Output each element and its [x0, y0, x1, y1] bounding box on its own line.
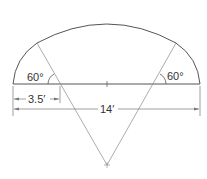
arch-diagram: 60° 60° 3.5′ 14′: [0, 0, 207, 179]
arrowhead-icon: [14, 108, 19, 111]
short-dimension-label: 3.5′: [28, 93, 45, 105]
span-dimension-label: 14′: [100, 103, 114, 115]
arrowhead-icon: [54, 98, 59, 101]
left-angle-arc: [48, 74, 54, 84]
arrowhead-icon: [194, 108, 199, 111]
left-radial-line: [37, 43, 107, 165]
right-angle-arc: [160, 74, 166, 84]
left-angle-label: 60°: [27, 71, 44, 83]
right-radial-line: [107, 43, 176, 165]
right-angle-label: 60°: [167, 70, 184, 82]
arrowhead-icon: [14, 98, 19, 101]
